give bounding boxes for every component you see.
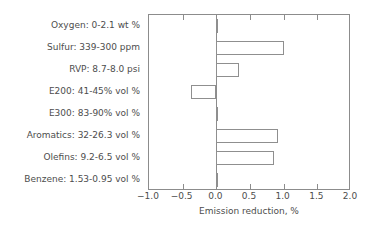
y-axis-label-text: Benzene: 1.53-0.95 vol %: [24, 174, 140, 184]
y-axis-label-0: Oxygen: 0-2.1 wt %: [0, 14, 144, 36]
plot-inner: [149, 15, 349, 189]
x-tick-label-6: 2.0: [343, 191, 357, 202]
y-axis-label-text: Olefins: 9.2-6.5 vol %: [43, 152, 140, 162]
bar-5: [216, 129, 277, 143]
y-axis-category-labels: Oxygen: 0-2.1 wt %Sulfur: 339-300 ppmRVP…: [0, 14, 144, 190]
bar-2: [216, 63, 239, 77]
bar-7: [216, 173, 218, 187]
x-axis-tick-labels: −1.0−0.50.00.51.01.52.0: [148, 191, 350, 205]
y-axis-label-4: E300: 83-90% vol %: [0, 102, 144, 124]
y-axis-label-7: Benzene: 1.53-0.95 vol %: [0, 168, 144, 190]
y-axis-label-text: Sulfur: 339-300 ppm: [47, 42, 140, 52]
bar-row: [149, 125, 349, 147]
bar-row: [149, 147, 349, 169]
y-axis-label-text: RVP: 8.7-8.0 psi: [69, 64, 140, 74]
y-axis-label-text: Oxygen: 0-2.1 wt %: [51, 20, 140, 30]
bar-6: [216, 151, 273, 165]
bar-row: [149, 169, 349, 191]
y-axis-label-text: E300: 83-90% vol %: [49, 108, 140, 118]
bar-3: [191, 85, 216, 99]
y-axis-label-3: E200: 41-45% vol %: [0, 80, 144, 102]
y-axis-label-text: Aromatics: 32-26.3 vol %: [27, 130, 140, 140]
x-tick-label-1: −0.5: [171, 191, 193, 202]
x-tick-label-2: 0.0: [208, 191, 222, 202]
y-axis-label-text: E200: 41-45% vol %: [49, 86, 140, 96]
y-axis-label-1: Sulfur: 339-300 ppm: [0, 36, 144, 58]
bar-row: [149, 15, 349, 37]
x-tick-label-0: −1.0: [137, 191, 159, 202]
bar-row: [149, 103, 349, 125]
bar-4: [216, 107, 218, 121]
bar-1: [216, 41, 284, 55]
bar-chart-figure: Oxygen: 0-2.1 wt %Sulfur: 339-300 ppmRVP…: [0, 0, 370, 225]
bar-row: [149, 37, 349, 59]
y-axis-label-2: RVP: 8.7-8.0 psi: [0, 58, 144, 80]
bar-0: [216, 19, 218, 33]
x-tick-label-5: 1.5: [309, 191, 323, 202]
y-axis-label-5: Aromatics: 32-26.3 vol %: [0, 124, 144, 146]
bar-row: [149, 59, 349, 81]
x-axis-title: Emission reduction, %: [148, 205, 350, 217]
x-tick-label-3: 0.5: [242, 191, 256, 202]
bar-row: [149, 81, 349, 103]
y-axis-label-6: Olefins: 9.2-6.5 vol %: [0, 146, 144, 168]
x-tick-label-4: 1.0: [275, 191, 289, 202]
plot-area: [148, 14, 350, 190]
